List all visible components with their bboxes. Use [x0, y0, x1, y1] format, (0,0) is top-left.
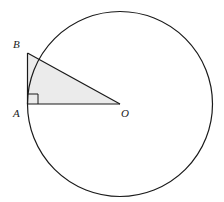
geometry-diagram: B A O — [0, 0, 224, 202]
label-B: B — [13, 38, 20, 50]
label-A: A — [12, 107, 20, 119]
label-O: O — [121, 107, 129, 119]
